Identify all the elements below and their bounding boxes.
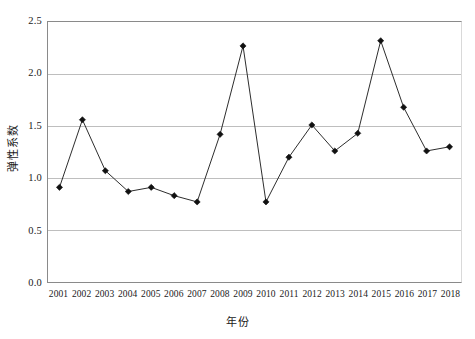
data-point-marker <box>171 193 177 199</box>
plot-area <box>47 21 462 283</box>
data-point-marker <box>401 104 407 110</box>
x-axis-tick-label: 2016 <box>395 288 414 300</box>
x-axis-title: 年份 <box>0 313 475 329</box>
y-axis-tick-label: 0.0 <box>2 278 42 288</box>
x-axis-tick-label: 2013 <box>325 288 344 300</box>
x-axis-tick-label: 2006 <box>164 288 183 300</box>
x-axis-tick-label: 2001 <box>49 288 68 300</box>
data-point-marker <box>79 117 85 123</box>
x-axis-tick-label: 2003 <box>95 288 114 300</box>
x-axis-tick-label: 2002 <box>72 288 91 300</box>
x-axis-tick-label: 2018 <box>441 288 460 300</box>
x-axis-tick-label: 2011 <box>280 288 299 300</box>
y-axis-tick-label: 2.0 <box>2 68 42 78</box>
data-point-marker <box>194 199 200 205</box>
x-axis-tick-label: 2008 <box>210 288 229 300</box>
x-axis-tick-labels: 2001200220032004200520062007200820092010… <box>47 288 462 304</box>
x-axis-tick-label: 2015 <box>372 288 391 300</box>
data-point-marker <box>217 131 223 137</box>
data-series-layer <box>48 22 461 282</box>
y-axis-tick-label: 2.5 <box>2 16 42 26</box>
data-point-marker <box>446 144 452 150</box>
x-axis-tick-label: 2007 <box>187 288 206 300</box>
series-line <box>59 41 449 202</box>
elasticity-coefficient-line-chart: 0.00.51.01.52.02.5 200120022003200420052… <box>0 0 475 339</box>
x-axis-tick-label: 2014 <box>349 288 368 300</box>
y-axis-tick-label: 0.5 <box>2 226 42 236</box>
x-axis-tick-label: 2012 <box>302 288 321 300</box>
data-point-marker <box>148 184 154 190</box>
data-point-marker <box>240 43 246 49</box>
x-axis-tick-label: 2004 <box>118 288 137 300</box>
data-point-marker <box>263 199 269 205</box>
x-axis-tick-label: 2009 <box>233 288 252 300</box>
data-point-marker <box>286 154 292 160</box>
x-axis-tick-label: 2017 <box>418 288 437 300</box>
data-point-marker <box>56 184 62 190</box>
y-axis-title: 弹性系数 <box>4 103 20 193</box>
x-axis-tick-label: 2005 <box>141 288 160 300</box>
data-point-marker <box>378 38 384 44</box>
data-point-marker <box>424 148 430 154</box>
x-axis-tick-label: 2010 <box>256 288 275 300</box>
